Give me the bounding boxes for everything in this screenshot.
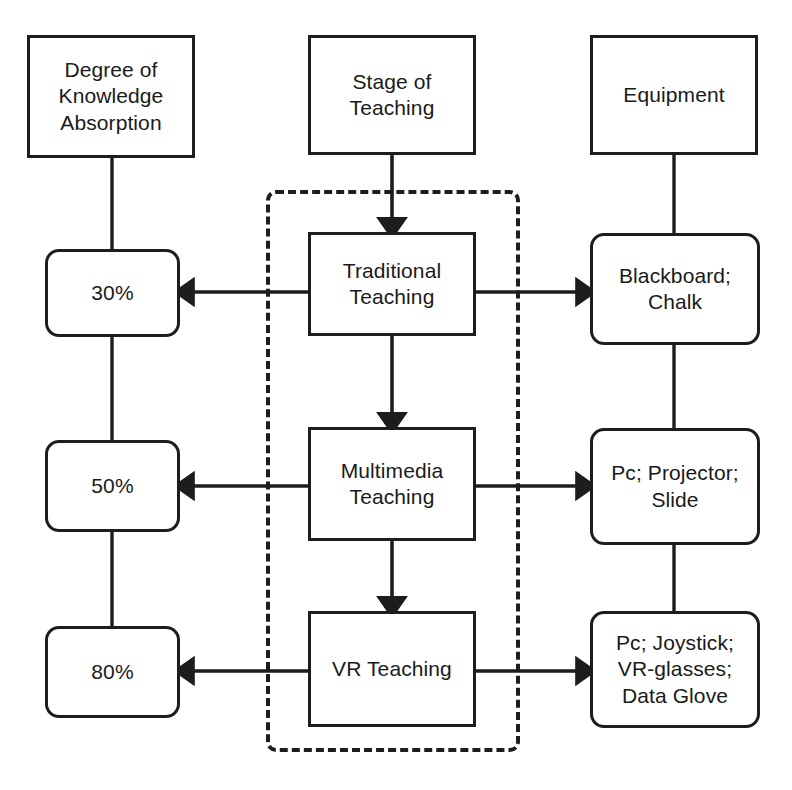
absorption-value-row-1: 30% — [85, 280, 139, 306]
absorption-value-row-3: 80% — [85, 659, 139, 685]
stage-label-row-1: Traditional Teaching — [337, 258, 447, 311]
equipment-box-row-2: Pc; Projector; Slide — [590, 428, 760, 545]
absorption-value-row-2: 50% — [85, 473, 139, 499]
stage-label-row-3: VR Teaching — [326, 656, 458, 682]
header-box-equipment: Equipment — [590, 35, 758, 155]
header-label-equipment: Equipment — [617, 82, 730, 108]
header-box-stage-of-teaching: Stage of Teaching — [308, 35, 476, 155]
equipment-label-row-1: Blackboard; Chalk — [613, 263, 737, 316]
stage-box-row-2: Multimedia Teaching — [308, 427, 476, 541]
equipment-box-row-1: Blackboard; Chalk — [590, 233, 760, 345]
absorption-box-row-1: 30% — [45, 249, 180, 337]
header-label-stage: Stage of Teaching — [344, 69, 441, 122]
equipment-box-row-3: Pc; Joystick; VR-glasses; Data Glove — [590, 611, 760, 728]
stage-label-row-2: Multimedia Teaching — [335, 458, 450, 511]
absorption-box-row-3: 80% — [45, 626, 180, 718]
stage-box-row-1: Traditional Teaching — [308, 232, 476, 336]
header-box-degree-of-knowledge-absorption: Degree of Knowledge Absorption — [27, 35, 195, 158]
equipment-label-row-3: Pc; Joystick; VR-glasses; Data Glove — [610, 630, 740, 709]
equipment-label-row-2: Pc; Projector; Slide — [605, 460, 744, 513]
header-label-absorption: Degree of Knowledge Absorption — [53, 57, 170, 136]
absorption-box-row-2: 50% — [45, 440, 180, 532]
flowchart-diagram: Degree of Knowledge Absorption Stage of … — [0, 0, 792, 790]
stage-box-row-3: VR Teaching — [308, 611, 476, 727]
